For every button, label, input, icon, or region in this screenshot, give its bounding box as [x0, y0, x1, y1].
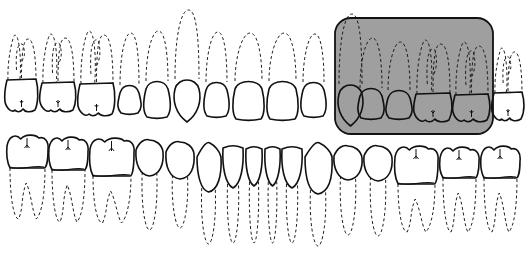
tooth-l-r-i2: [223, 146, 243, 188]
tooth-l-r-i1: [246, 147, 262, 186]
tooth-l-r-m2: [7, 135, 49, 168]
tooth-u-r-m1a: [40, 82, 76, 112]
tooth-l-l-i2: [282, 147, 302, 188]
tooth-l-r-m1b: [90, 138, 135, 176]
tooth-l-l-c: [305, 143, 332, 194]
tooth-u-l-m3: [492, 92, 524, 121]
tooth-u-l-i1: [267, 82, 298, 121]
tooth-l-l-pm2: [364, 145, 392, 181]
tooth-u-r-i1: [233, 82, 264, 121]
tooth-l-r-pm1: [166, 141, 194, 179]
tooth-l-l-i1: [265, 147, 280, 186]
tooth-l-l-m1: [395, 146, 439, 184]
tooth-u-r-pm1: [144, 82, 170, 119]
tooth-u-r-m1: [78, 83, 115, 116]
dentition-diagram: Permanent dentition — maxillary and mand…: [0, 0, 529, 254]
tooth-l-l-m3: [481, 146, 521, 178]
tooth-l-r-pm2: [136, 139, 163, 176]
tooth-u-r-i2: [204, 83, 229, 118]
tooth-l-r-m1: [49, 137, 89, 170]
tooth-u-r-m2: [5, 79, 38, 112]
mandibular-roots: [10, 168, 517, 246]
tooth-l-r-c: [197, 143, 221, 192]
tooth-u-r-pm2: [118, 86, 141, 115]
tooth-l-l-m2: [440, 147, 480, 178]
tooth-u-r-c: [174, 80, 200, 122]
tooth-l-l-pm1: [334, 145, 362, 180]
tooth-u-l-i2: [301, 83, 326, 118]
